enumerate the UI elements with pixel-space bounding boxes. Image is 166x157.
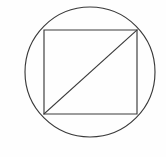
geometry-figure-svg <box>0 0 166 157</box>
diagonal-line <box>44 30 137 114</box>
figure-canvas <box>0 0 166 157</box>
